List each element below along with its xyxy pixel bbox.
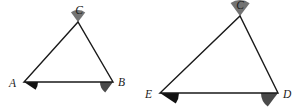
- triangle-abc-label-b: B: [118, 76, 125, 88]
- triangle-abc-label-a: A: [8, 77, 17, 89]
- figure-canvas: ABCEDC: [0, 0, 304, 107]
- geometry-figure: ABCEDC: [0, 0, 304, 107]
- triangle-abc-label-c: C: [75, 4, 83, 16]
- triangle-ecd-label-d: D: [282, 88, 292, 100]
- triangle-ecd-label-e: E: [144, 88, 152, 100]
- triangle-ecd-label-c: C: [236, 0, 244, 11]
